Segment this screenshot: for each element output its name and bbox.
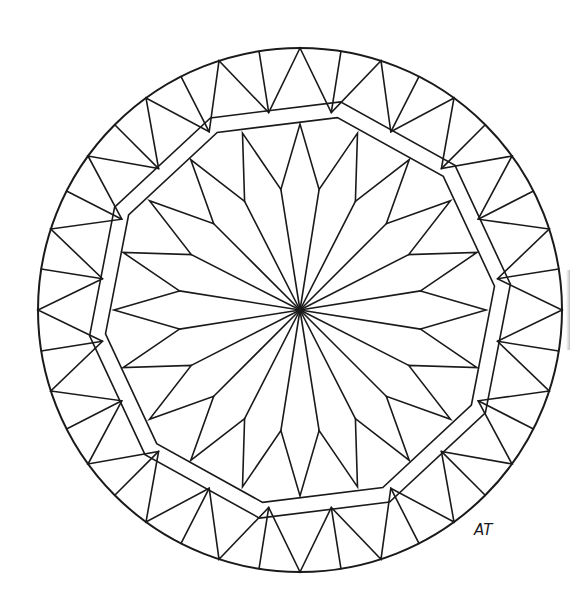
mandala-drawing: AT xyxy=(0,0,570,605)
star-ray xyxy=(214,224,300,310)
star-ray xyxy=(300,310,386,396)
mandala-svg: AT xyxy=(0,0,570,605)
star-ray xyxy=(300,224,386,310)
central-star xyxy=(114,124,486,496)
artist-signature: AT xyxy=(473,521,494,539)
star-ray xyxy=(214,310,300,396)
page-edge-shadow xyxy=(566,270,570,350)
center-dot xyxy=(298,308,303,313)
